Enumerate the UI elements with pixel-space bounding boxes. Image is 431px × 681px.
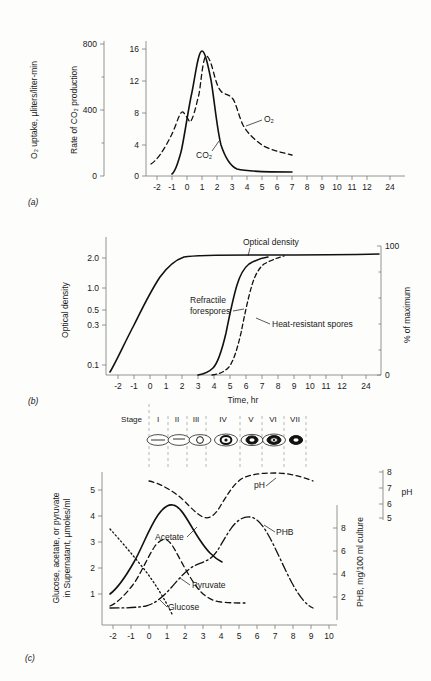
panel-b-xtick-12: 12 [337,381,347,391]
cell-diagram-stage-iv [215,434,238,446]
panel-a-rtick-0: 0 [134,171,139,181]
panel-c-phbtick-8: 8 [341,523,346,533]
panel-b-xtick-8: 8 [276,381,281,391]
panel-b-xtick--2: -2 [114,381,122,391]
panel-a-xtick-9: 9 [320,182,325,192]
panel-a-xtick-1: 1 [200,182,205,192]
panel-b-xtick-5: 5 [228,381,233,391]
panel-c: 5 4 3 2 1 Glucose, acetate, or pyruvate … [25,467,412,663]
panel-c-label-acetate: Acetate [155,532,184,542]
panel-a-xtick--2: -2 [153,182,161,192]
panel-a-rtick-16: 16 [130,44,140,54]
panel-c-xtick-3: 3 [201,631,206,641]
panel-c-ytick-5: 5 [90,485,95,495]
panel-b-rtick-0: 0 [385,370,390,380]
panel-a-leader-o2 [246,120,262,126]
panel-b-xtick-7: 7 [260,381,265,391]
panel-b-xtick-24: 24 [361,381,371,391]
panel-a-xtick-12: 12 [362,182,372,192]
panel-c-label-pyruvate: Pyruvate [192,580,226,590]
panel-a-ytick-0: 0 [92,171,97,181]
cell-diagram-stage-iii [189,435,211,446]
panel-b-right-axis: 100 0 % of maximum [377,241,412,380]
panel-c-left-axis-title-line1: Glucose, acetate, or pyruvate [51,492,61,603]
panel-c-xtick-5: 5 [237,631,242,641]
panel-a-xtick-2: 2 [215,182,220,192]
panel-c-xtick-10: 10 [324,631,334,641]
panel-c-ph-axis-title: pH [402,487,413,497]
panel-c-curve-pyruvate [110,539,245,606]
panel-b-ytick-1: 1.0 [87,283,99,293]
panel-a-xtick-7: 7 [290,182,295,192]
panel-a-left-axis: 800 400 0 O₂ uptake, µliters/liter-min [29,39,104,181]
cell-diagram-stage-v [241,434,263,445]
panel-c-leader-ph [266,478,276,486]
panel-c-xtick-7: 7 [273,631,278,641]
cell-diagram-stage-vi [263,434,286,446]
panel-a-xtick-24: 24 [385,182,395,192]
panel-a-rtick-12: 12 [130,76,140,86]
panel-c-xtick-4: 4 [219,631,224,641]
panel-a-xtick-10: 10 [332,182,342,192]
panel-c-xtick-0: 0 [147,631,152,641]
panel-a-left-axis-title: O₂ uptake, µliters/liter-min [29,61,39,159]
stage-label-i: I [157,415,159,424]
panel-a-rtick-8: 8 [134,108,139,118]
panel-b-rtick-100: 100 [385,241,399,251]
stage-label-vii: VII [290,415,300,424]
panel-a-xtick-6: 6 [275,182,280,192]
panel-b-xtick--1: -1 [130,381,138,391]
panel-c-xtick-6: 6 [255,631,260,641]
panel-a-xtick-0: 0 [185,182,190,192]
cell-diagram-stage-vii [289,436,302,445]
panel-c-phtick-5: 5 [387,513,392,523]
panel-b-xtick-11: 11 [322,381,331,391]
stage-label-vi: VI [269,415,277,424]
panel-b-ytick-01: 0.1 [87,360,99,370]
panel-c-ph-axis: 8 7 6 5 pH [379,467,412,523]
panel-b-left-axis-title: Optical density [60,281,70,337]
panel-c-xtick--2: -2 [109,631,117,641]
panel-b: 2.0 1.0 0.5 0.3 0.1 Optical density 100 … [28,237,412,406]
panel-b-label-optical-density: Optical density [243,237,299,247]
panel-c-phbtick-6: 6 [341,546,346,556]
panel-c-phbtick-4: 4 [341,569,346,579]
panel-c-phtick-8: 8 [387,467,392,477]
panel-a-ytick-800: 800 [83,39,97,49]
panel-c-phtick-7: 7 [387,483,392,493]
panel-c-xtick-9: 9 [309,631,314,641]
panel-b-xtick-9: 9 [292,381,297,391]
panel-a-right-axis: 16 12 8 4 0 Rate of CO₂ production [69,41,146,181]
panel-c-ytick-3: 3 [90,537,95,547]
panel-b-label-heat-resistant: Heat-resistant spores [272,319,353,329]
panel-c-label: (c) [25,653,35,663]
stage-label-iii: III [193,415,200,424]
panel-c-left-axis: 5 4 3 2 1 Glucose, acetate, or pyruvate … [51,472,102,625]
panel-c-left-axis-title-line2: in Supernatant, µmoles/ml [62,498,72,597]
panel-c-phbtick-2: 2 [341,592,346,602]
panel-b-leader-refractile [233,309,244,311]
panel-a-xtick-4: 4 [245,182,250,192]
panel-b-xtick-0: 0 [148,381,153,391]
panel-a-xtick-8: 8 [305,182,310,192]
panel-b-ytick-03: 0.3 [87,320,99,330]
panel-c-leader-pyruvate [180,578,190,585]
panel-a-curve-co2 [172,51,292,174]
stage-label-ii: II [175,415,179,424]
panel-b-xtick-2: 2 [180,381,185,391]
panel-c-curve-ph [149,473,313,518]
panel-a-right-axis-title: Rate of CO₂ production [69,66,79,154]
panel-b-xtick-4: 4 [212,381,217,391]
panel-a-xtick-11: 11 [348,182,357,192]
panel-b-x-axis-title: Time, hr [228,395,259,405]
panel-a-label: (a) [28,197,39,207]
panel-c-xtick-2: 2 [183,631,188,641]
panel-b-xtick-1: 1 [164,381,169,391]
panel-b-leader-heat-resistant [256,318,270,324]
panel-a-label-co2: CO₂ [196,150,212,160]
panel-a-rtick-4: 4 [134,140,139,150]
panel-c-phb-axis-title: PHB, mg/100 ml culture [355,517,365,607]
panel-c-phtick-6: 6 [387,499,392,509]
panel-c-label-phb: PHB [276,527,294,537]
panel-a-leader-co2 [212,141,219,151]
